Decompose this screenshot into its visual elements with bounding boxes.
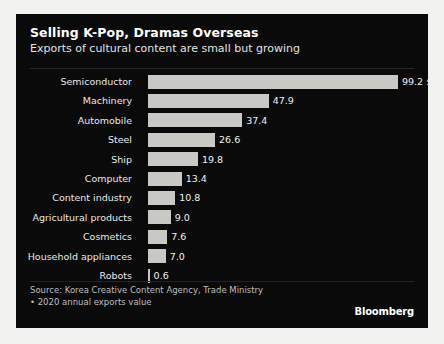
bar <box>148 249 166 263</box>
bar <box>148 191 175 205</box>
bar-track: 7.0 <box>148 247 428 266</box>
bar-row: Household appliances7.0 <box>16 247 428 266</box>
bar <box>148 210 171 224</box>
bar-track: 19.8 <box>148 150 428 169</box>
bar-track: 47.9 <box>148 91 428 110</box>
bar-row: Machinery47.9 <box>16 91 428 110</box>
bar-value-label: 37.4 <box>242 111 267 130</box>
bar-row: Robots0.6 <box>16 266 428 285</box>
bar-category-label: Automobile <box>16 111 132 130</box>
bar-track: 26.6 <box>148 130 428 149</box>
bar <box>148 94 269 108</box>
bar-value-label: 19.8 <box>198 150 223 169</box>
chart-subtitle: Exports of cultural content are small bu… <box>30 41 414 56</box>
bar-row: Automobile37.4 <box>16 111 428 130</box>
bar-row: Content industry10.8 <box>16 188 428 207</box>
bar-category-label: Household appliances <box>16 247 132 266</box>
header-divider <box>30 68 414 69</box>
bar-track: 9.0 <box>148 208 428 227</box>
bar-row: Cosmetics7.6 <box>16 227 428 246</box>
bar-value-label: 7.0 <box>166 247 185 266</box>
bar <box>148 133 215 147</box>
bar <box>148 75 398 89</box>
bar-track: 7.6 <box>148 227 428 246</box>
bar-row: Agricultural products9.0 <box>16 208 428 227</box>
chart-screenshot: Selling K-Pop, Dramas Overseas Exports o… <box>0 0 444 344</box>
bar-category-label: Computer <box>16 169 132 188</box>
bar-value-label: 0.6 <box>150 266 169 285</box>
bar <box>148 113 242 127</box>
bar-category-label: Semiconductor <box>16 72 132 91</box>
bar-track: 99.2 $B <box>148 72 428 91</box>
chart-header: Selling K-Pop, Dramas Overseas Exports o… <box>16 14 428 56</box>
bar-track: 0.6 <box>148 266 428 285</box>
bar-value-label: 9.0 <box>171 208 190 227</box>
bar-category-label: Steel <box>16 130 132 149</box>
bar-row: Semiconductor99.2 $B <box>16 72 428 91</box>
bar-value-label: 7.6 <box>167 227 186 246</box>
bar-row: Computer13.4 <box>16 169 428 188</box>
bloomberg-logo: Bloomberg <box>355 306 414 317</box>
bar-track: 10.8 <box>148 188 428 207</box>
chart-panel: Selling K-Pop, Dramas Overseas Exports o… <box>16 14 428 328</box>
bar <box>148 152 198 166</box>
bar <box>148 172 182 186</box>
bar <box>148 230 167 244</box>
bar-value-label: 10.8 <box>175 188 200 207</box>
bar-category-label: Content industry <box>16 188 132 207</box>
bar-row: Ship19.8 <box>16 150 428 169</box>
bar-track: 13.4 <box>148 169 428 188</box>
bar-category-label: Ship <box>16 150 132 169</box>
source-text: Source: Korea Creative Content Agency, T… <box>30 284 414 296</box>
bar-category-label: Machinery <box>16 91 132 110</box>
bar-track: 37.4 <box>148 111 428 130</box>
footer-divider <box>30 281 414 282</box>
bar-chart-plot: Semiconductor99.2 $BMachinery47.9Automob… <box>16 72 428 278</box>
bar-value-label: 99.2 $B <box>398 72 428 91</box>
bar-row: Steel26.6 <box>16 130 428 149</box>
bar-category-label: Cosmetics <box>16 227 132 246</box>
chart-footer: Source: Korea Creative Content Agency, T… <box>30 284 414 318</box>
bar-value-label: 26.6 <box>215 130 240 149</box>
bar-value-label: 13.4 <box>182 169 207 188</box>
bar-category-label: Robots <box>16 266 132 285</box>
chart-title: Selling K-Pop, Dramas Overseas <box>30 25 414 40</box>
bar-category-label: Agricultural products <box>16 208 132 227</box>
bar-value-label: 47.9 <box>269 91 294 110</box>
